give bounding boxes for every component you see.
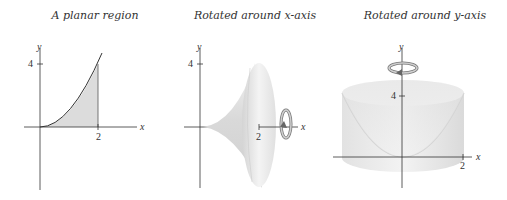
x-tick-label: 2 [460, 160, 465, 171]
y-tick-label: 4 [28, 58, 33, 69]
panel3-plot: y x 4 2 [333, 41, 481, 188]
x-axis-label: x [300, 121, 306, 132]
diagram-canvas: y x 4 2 y x 4 2 [0, 0, 507, 200]
y-axis-label: y [398, 41, 404, 52]
rotation-arrow-icon [389, 63, 417, 76]
shaded-region [40, 64, 98, 127]
x-axis-label: x [475, 151, 481, 162]
x-tick-label: 2 [256, 131, 261, 142]
panel2-plot: y x 4 2 [184, 41, 306, 188]
y-tick-label: 4 [188, 58, 193, 69]
y-tick-label: 4 [391, 90, 396, 101]
y-axis-label: y [36, 41, 42, 52]
x-tick-label: 2 [96, 131, 101, 142]
y-axis-label: y [196, 41, 202, 52]
x-axis-label: x [139, 121, 145, 132]
rotation-arrow-icon [280, 110, 291, 138]
panel1-plot: y x 4 2 [24, 41, 145, 190]
